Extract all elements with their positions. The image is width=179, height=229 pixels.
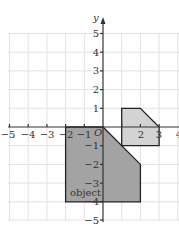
y-axis-label: y	[92, 12, 99, 23]
svg-text:−2: −2	[84, 159, 99, 170]
svg-text:−1: −1	[84, 140, 99, 151]
svg-text:−3: −3	[40, 129, 55, 140]
svg-text:3: 3	[156, 129, 162, 140]
origin-label: O	[94, 127, 102, 138]
svg-text:2: 2	[93, 84, 99, 95]
svg-text:−2: −2	[59, 129, 74, 140]
svg-text:3: 3	[93, 65, 99, 76]
svg-text:4: 4	[93, 47, 99, 58]
svg-text:−5: −5	[84, 215, 99, 226]
y-axis-arrow-icon	[101, 17, 106, 24]
svg-text:5: 5	[93, 28, 99, 39]
coordinate-grid-diagram: y O −5 −4 −3 −2 −1 2 3 4 5 4 3 2 1 −1 −2…	[0, 0, 179, 229]
svg-text:−4: −4	[21, 129, 36, 140]
object-label: object	[70, 187, 101, 198]
svg-text:2: 2	[138, 129, 144, 140]
svg-text:−1: −1	[77, 129, 92, 140]
svg-text:4: 4	[176, 129, 179, 140]
svg-text:1: 1	[93, 103, 99, 114]
svg-text:−5: −5	[1, 129, 16, 140]
